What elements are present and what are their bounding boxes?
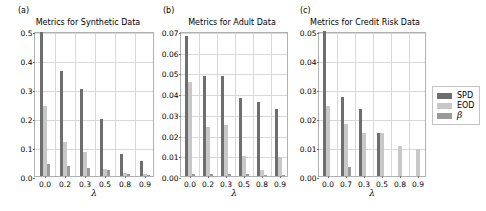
y-tick-mark (179, 74, 181, 75)
bar-β-0.8 (264, 175, 267, 176)
gridline-vertical (55, 33, 56, 176)
x-tick-mark (280, 176, 281, 178)
bar-β-0.5 (107, 170, 110, 176)
x-tick-label: 0.8 (119, 180, 131, 189)
bar-eod-0.2 (206, 127, 209, 176)
y-tick-mark (33, 120, 35, 121)
gridline-vertical (75, 33, 76, 176)
legend-entry-eod: EOD (437, 101, 475, 110)
legend-label: β (457, 111, 462, 120)
gridline-vertical (373, 33, 374, 176)
y-tick-mark (317, 33, 319, 34)
bar-eod-0.3 (224, 125, 227, 176)
x-tick-label: 0.0 (322, 180, 334, 189)
y-tick-mark (317, 62, 319, 63)
legend-label: EOD (457, 101, 475, 110)
x-tick-mark (145, 176, 146, 178)
bar-β-0.9 (282, 175, 285, 176)
gridline-vertical (409, 33, 410, 176)
gridline-vertical (115, 33, 116, 176)
x-tick-mark (364, 176, 365, 178)
x-tick-label: 0.8 (256, 180, 268, 189)
y-tick-label: 0.05 (300, 29, 317, 38)
y-tick-mark (317, 120, 319, 121)
legend: SPDEODβ (432, 86, 480, 125)
x-tick-mark (190, 176, 191, 178)
bar-β-0.0 (192, 174, 195, 176)
y-tick-label: 0.0 (21, 174, 33, 183)
y-tick-mark (179, 178, 181, 179)
x-tick-mark (45, 176, 46, 178)
x-tick-mark (244, 176, 245, 178)
x-tick-label: 0.2 (202, 180, 214, 189)
y-tick-label: 0.04 (162, 91, 179, 100)
gridline-vertical (355, 33, 356, 176)
bar-spd-0.5 (100, 119, 103, 176)
bar-eod-0.0 (326, 106, 329, 176)
x-tick-label: 0.9 (412, 180, 424, 189)
x-tick-label: 0.5 (238, 180, 250, 189)
y-tick-mark (33, 178, 35, 179)
legend-entry-spd: SPD (437, 91, 475, 100)
bar-β-0.2 (67, 166, 70, 176)
panel-b-xaxis-label: λ (231, 188, 237, 198)
gridline-vertical (95, 33, 96, 176)
x-tick-label: 0.9 (139, 180, 151, 189)
y-tick-mark (317, 178, 319, 179)
y-tick-label: 0.05 (162, 70, 179, 79)
gridline-vertical (199, 33, 200, 176)
x-tick-mark (328, 176, 329, 178)
bar-eod-0.5 (380, 133, 383, 176)
x-tick-label: 0.8 (394, 180, 406, 189)
bar-β-0.7 (348, 167, 351, 176)
gridline-vertical (135, 33, 136, 176)
bar-eod-0.8 (398, 146, 401, 176)
y-tick-label: 0.01 (300, 145, 317, 154)
y-tick-mark (33, 91, 35, 92)
gridline-vertical (271, 33, 272, 176)
legend-swatch-icon (437, 93, 452, 99)
bar-spd-0.8 (257, 102, 260, 176)
y-tick-mark (179, 54, 181, 55)
y-tick-mark (179, 116, 181, 117)
panel-b-tag: (b) (163, 6, 174, 15)
panel-a-tag: (a) (18, 6, 29, 15)
gridline-vertical (391, 33, 392, 176)
y-tick-mark (317, 149, 319, 150)
x-tick-mark (65, 176, 66, 178)
y-tick-mark (33, 33, 35, 34)
panel-c-title: Metrics for Credit Risk Data (310, 18, 418, 27)
x-tick-mark (125, 176, 126, 178)
x-tick-label: 0.5 (99, 180, 111, 189)
gridline-vertical (235, 33, 236, 176)
bar-β-0.5 (246, 174, 249, 176)
gridline-vertical (337, 33, 338, 176)
bar-β-0.9 (147, 175, 150, 176)
y-tick-mark (33, 149, 35, 150)
y-tick-label: 0.02 (300, 116, 317, 125)
y-tick-label: 0.03 (300, 87, 317, 96)
panel-a-title: Metrics for Synthetic Data (28, 18, 148, 27)
y-tick-label: 0.02 (162, 132, 179, 141)
y-tick-label: 0.3 (21, 87, 33, 96)
x-tick-label: 0.5 (376, 180, 388, 189)
y-tick-label: 0.00 (162, 174, 179, 183)
bar-eod-0.0 (188, 82, 191, 176)
x-tick-mark (400, 176, 401, 178)
panel-c-plot-area: λ 0.000.010.020.030.040.050.00.70.30.50.… (318, 32, 426, 177)
y-tick-label: 0.5 (21, 29, 33, 38)
legend-entry-beta: β (437, 111, 475, 120)
x-tick-label: 0.0 (39, 180, 51, 189)
x-tick-mark (346, 176, 347, 178)
y-tick-label: 0.04 (300, 58, 317, 67)
bar-β-0.3 (87, 168, 90, 176)
panel-a-plot-area: λ 0.00.10.20.30.40.50.00.20.30.50.80.9 (34, 32, 154, 177)
bar-β-0.3 (228, 174, 231, 176)
x-tick-mark (105, 176, 106, 178)
y-tick-mark (33, 62, 35, 63)
y-tick-label: 0.4 (21, 58, 33, 67)
panel-a-xaxis-label: λ (91, 188, 97, 198)
bar-β-0.2 (210, 174, 213, 176)
y-tick-label: 0.01 (162, 153, 179, 162)
x-tick-label: 0.2 (59, 180, 71, 189)
